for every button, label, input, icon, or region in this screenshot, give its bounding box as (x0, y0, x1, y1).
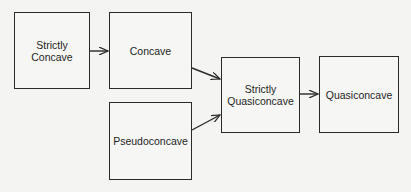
arrow-concave-to-strictly-quasiconcave (192, 68, 220, 79)
edges-layer (0, 0, 411, 192)
arrow-pseudoconcave-to-strictly-quasiconcave (192, 115, 220, 130)
